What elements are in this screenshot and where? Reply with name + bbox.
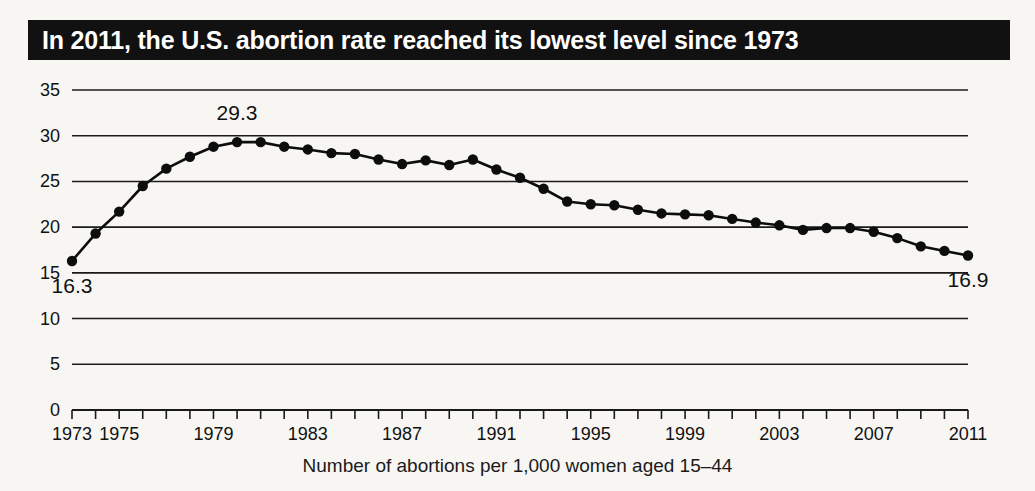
data-point-1986 [373,154,383,164]
data-point-1977 [161,163,171,173]
data-point-1978 [185,152,195,162]
data-point-1981 [255,137,265,147]
data-point-1990 [468,154,478,164]
annotation-29.3: 29.3 [217,101,258,124]
x-axis-label-2011: 2011 [949,424,988,444]
line-chart-svg: 0510152025303519731975197919831987199119… [0,0,1035,491]
data-point-2008 [892,233,902,243]
annotation-16.9: 16.9 [948,268,989,291]
data-point-1988 [420,155,430,165]
y-axis-label-10: 10 [40,309,60,329]
data-point-2001 [727,214,737,224]
data-point-2006 [845,223,855,233]
data-point-2002 [751,217,761,227]
data-point-1983 [303,144,313,154]
x-axis-label-1973: 1973 [52,424,92,444]
data-point-1987 [397,159,407,169]
data-point-2010 [939,246,949,256]
data-point-2000 [703,210,713,220]
data-point-2005 [821,223,831,233]
data-point-2009 [916,241,926,251]
x-axis-label-1999: 1999 [665,424,705,444]
data-series-line [72,142,968,261]
chart-figure: In 2011, the U.S. abortion rate reached … [0,0,1035,491]
data-point-1979 [208,141,218,151]
data-point-1993 [538,184,548,194]
data-point-1997 [633,205,643,215]
data-point-1992 [515,173,525,183]
y-axis-label-0: 0 [50,400,60,420]
data-point-1980 [232,137,242,147]
data-point-1989 [444,160,454,170]
y-axis-label-25: 25 [40,171,60,191]
data-point-1991 [491,164,501,174]
plot-area: 0510152025303519731975197919831987199119… [0,0,1035,491]
x-axis-label-1987: 1987 [382,424,422,444]
data-point-1995 [586,199,596,209]
y-axis-label-5: 5 [50,354,60,374]
data-point-2007 [868,227,878,237]
x-axis-label-1979: 1979 [193,424,233,444]
x-axis-label-1995: 1995 [571,424,611,444]
data-point-1994 [562,196,572,206]
x-axis-label-1983: 1983 [288,424,328,444]
data-point-2011 [963,250,973,260]
y-axis-label-35: 35 [40,80,60,100]
chart-caption: Number of abortions per 1,000 women aged… [0,455,1035,477]
y-axis-label-30: 30 [40,126,60,146]
data-point-1998 [656,208,666,218]
data-point-1996 [609,200,619,210]
data-point-1973 [67,256,77,266]
data-point-2004 [798,225,808,235]
y-axis-label-20: 20 [40,217,60,237]
x-axis-label-1975: 1975 [99,424,139,444]
data-point-1984 [326,148,336,158]
x-axis-label-2003: 2003 [759,424,799,444]
annotation-16.3: 16.3 [52,274,93,297]
data-point-1982 [279,141,289,151]
data-point-1999 [680,209,690,219]
data-point-1974 [90,228,100,238]
data-point-1975 [114,206,124,216]
x-axis-label-2007: 2007 [854,424,894,444]
data-point-1985 [350,149,360,159]
data-point-1976 [138,181,148,191]
x-axis-label-1991: 1991 [476,424,516,444]
data-point-2003 [774,220,784,230]
